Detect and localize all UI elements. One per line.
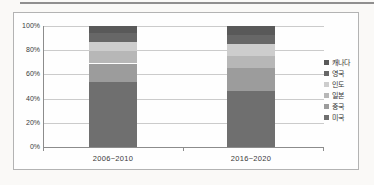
bar-segment-캐나다 — [89, 26, 137, 33]
y-tick-label: 100% — [15, 22, 40, 30]
bar-segment-인도 — [227, 44, 275, 56]
y-tick-label: 60% — [15, 70, 40, 78]
x-axis-tick — [323, 147, 324, 151]
legend-marker-icon — [324, 82, 329, 87]
bar-segment-일본 — [89, 51, 137, 63]
scan-edge-line — [20, 2, 374, 4]
legend-item-미국: 미국 — [324, 112, 350, 123]
gridline-20 — [43, 123, 324, 124]
legend-label: 중국 — [332, 103, 344, 111]
bar-segment-미국 — [89, 82, 137, 147]
legend-label: 미국 — [332, 114, 344, 122]
legend-marker-icon — [324, 71, 329, 76]
bar-segment-영국 — [227, 35, 275, 45]
bar-segment-중국 — [227, 68, 275, 91]
legend-item-인도: 인도 — [324, 79, 350, 90]
x-axis-tick — [43, 147, 44, 151]
legend-label: 인도 — [332, 81, 344, 89]
y-tick-label: 20% — [15, 119, 40, 127]
gridline-100 — [43, 26, 324, 27]
legend-item-영국: 영국 — [324, 68, 350, 79]
y-tick-label: 40% — [15, 95, 40, 103]
y-tick-label: 80% — [15, 46, 40, 54]
y-tick-label: 0% — [15, 143, 40, 151]
legend-label: 일본 — [332, 92, 344, 100]
legend-label: 캐나다 — [332, 59, 350, 67]
bar-segment-일본 — [227, 56, 275, 68]
legend-item-중국: 중국 — [324, 101, 350, 112]
chart-frame: 100% 80% 60% 40% 20% 0% 2006~2010 2016~2… — [13, 12, 359, 170]
legend: 캐나다영국인도일본중국미국 — [324, 57, 350, 123]
gridline-80 — [43, 50, 324, 51]
gridline-40 — [43, 99, 324, 100]
x-axis-tick — [183, 147, 184, 151]
legend-item-일본: 일본 — [324, 90, 350, 101]
gridline-60 — [43, 74, 324, 75]
legend-label: 영국 — [332, 70, 344, 78]
bar-segment-영국 — [89, 33, 137, 42]
bar-segment-미국 — [227, 91, 275, 147]
legend-marker-icon — [324, 93, 329, 98]
bar-segment-인도 — [89, 42, 137, 52]
legend-marker-icon — [324, 104, 329, 109]
legend-marker-icon — [324, 60, 329, 65]
legend-item-캐나다: 캐나다 — [324, 57, 350, 68]
legend-marker-icon — [324, 115, 329, 120]
x-category-label: 2016~2020 — [203, 154, 299, 163]
y-axis-line — [43, 26, 44, 148]
bar-segment-중국 — [89, 64, 137, 82]
bar-segment-캐나다 — [227, 26, 275, 35]
x-category-label: 2006~2010 — [65, 154, 161, 163]
